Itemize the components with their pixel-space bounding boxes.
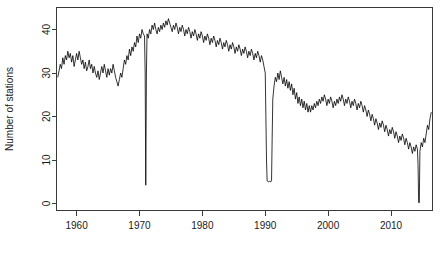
x-tick-label: 1960 xyxy=(65,220,88,231)
series-line xyxy=(58,19,431,203)
y-tick-label: 30 xyxy=(41,67,52,79)
y-axis-title: Number of stations xyxy=(4,67,15,151)
plot-frame xyxy=(57,8,433,211)
x-tick-label: 2010 xyxy=(380,220,403,231)
y-tick-label: 40 xyxy=(41,24,52,36)
line-chart: 010203040196019701980199020002010Number … xyxy=(0,0,448,255)
y-tick-label: 20 xyxy=(41,111,52,123)
x-tick-label: 2000 xyxy=(317,220,340,231)
y-tick-label: 10 xyxy=(41,154,52,166)
chart-figure: 010203040196019701980199020002010Number … xyxy=(0,0,448,255)
x-tick-label: 1990 xyxy=(254,220,277,231)
x-tick-label: 1980 xyxy=(191,220,214,231)
x-tick-label: 1970 xyxy=(128,220,151,231)
y-tick-label: 0 xyxy=(41,200,52,206)
